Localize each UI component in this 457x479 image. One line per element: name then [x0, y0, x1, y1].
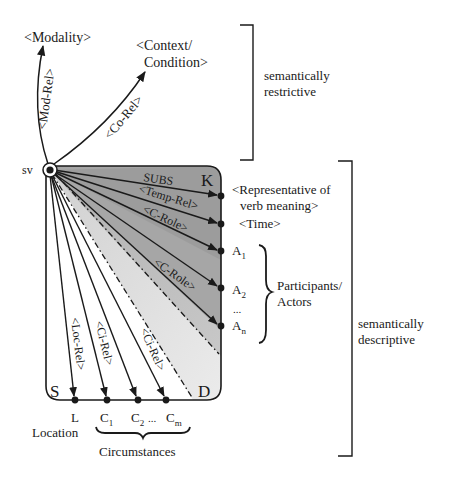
time-label: <Time> [239, 216, 281, 231]
mod-rel-label: <Mod-Rel> [34, 67, 57, 130]
node-c1 [104, 397, 111, 404]
circumstances-label: Circumstances [99, 444, 176, 459]
node-c2 [135, 397, 142, 404]
c-dots-label: ... [148, 412, 157, 424]
sv-node-inner [46, 166, 53, 173]
node-cm [163, 397, 170, 404]
co-rel-label: <Co-Rel> [101, 92, 146, 142]
participants-label-line2: Actors [277, 294, 312, 309]
cm-label: Cm [166, 410, 182, 428]
location-label: Location [32, 425, 79, 440]
node-l [72, 397, 79, 404]
l-label: L [71, 410, 79, 425]
restrictive-bracket [240, 25, 253, 160]
s-label: S [50, 382, 59, 401]
participants-label-line1: Participants/ [277, 278, 342, 293]
circumstances-brace [96, 427, 190, 438]
sv-label: sv [22, 163, 33, 177]
participants-brace [259, 245, 272, 343]
node-a2 [218, 285, 225, 292]
loc-rel-arrow [50, 175, 74, 396]
a2-label: A2 [232, 282, 246, 300]
descriptive-bracket [338, 161, 352, 456]
modality-label: <Modality> [24, 30, 91, 45]
context-label-line1: <Context/ [136, 38, 192, 53]
k-label: K [201, 171, 214, 190]
an-label: An [232, 318, 246, 336]
ellipsis-label: ... [233, 303, 242, 315]
node-a1 [218, 248, 225, 255]
c2-label: C2 [131, 410, 144, 428]
restrictive-label-line1: semantically [264, 68, 330, 83]
context-label-line2: Condition> [144, 55, 208, 70]
rep-label-line1: <Representative of [232, 182, 331, 197]
restrictive-label-line2: restrictive [264, 84, 316, 99]
d-label: D [198, 382, 210, 401]
descriptive-label-line2: descriptive [358, 332, 415, 347]
semantic-net-diagram: sv <Modality> <Context/ Condition> <Mod-… [0, 0, 457, 479]
descriptive-label-line1: semantically [358, 316, 424, 331]
a1-label: A1 [232, 243, 246, 261]
c1-label: C1 [100, 410, 113, 428]
node-rep [218, 193, 225, 200]
node-an [218, 323, 225, 330]
rep-label-line2: verb meaning> [240, 198, 318, 213]
ci-rel-label-1: <Ci-Rel> [92, 319, 117, 367]
node-time [218, 221, 225, 228]
